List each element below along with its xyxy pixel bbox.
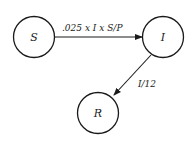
node-r: R [78, 93, 119, 134]
edge-s-to-i: .025 x I x S/P [55, 23, 142, 37]
edge-s-to-i-label: .025 x I x S/P [62, 23, 123, 33]
edge-i-to-r: I/12 [114, 55, 156, 95]
node-r-label: R [93, 107, 102, 120]
edge-i-to-r-label: I/12 [137, 79, 156, 89]
node-s-label: S [30, 31, 38, 44]
node-s: S [14, 17, 55, 58]
sir-diagram: S I R .025 x I x S/P I/12 [0, 0, 195, 141]
node-i-label: I [160, 31, 166, 44]
node-i: I [143, 17, 184, 58]
arrow-icon [114, 55, 151, 95]
